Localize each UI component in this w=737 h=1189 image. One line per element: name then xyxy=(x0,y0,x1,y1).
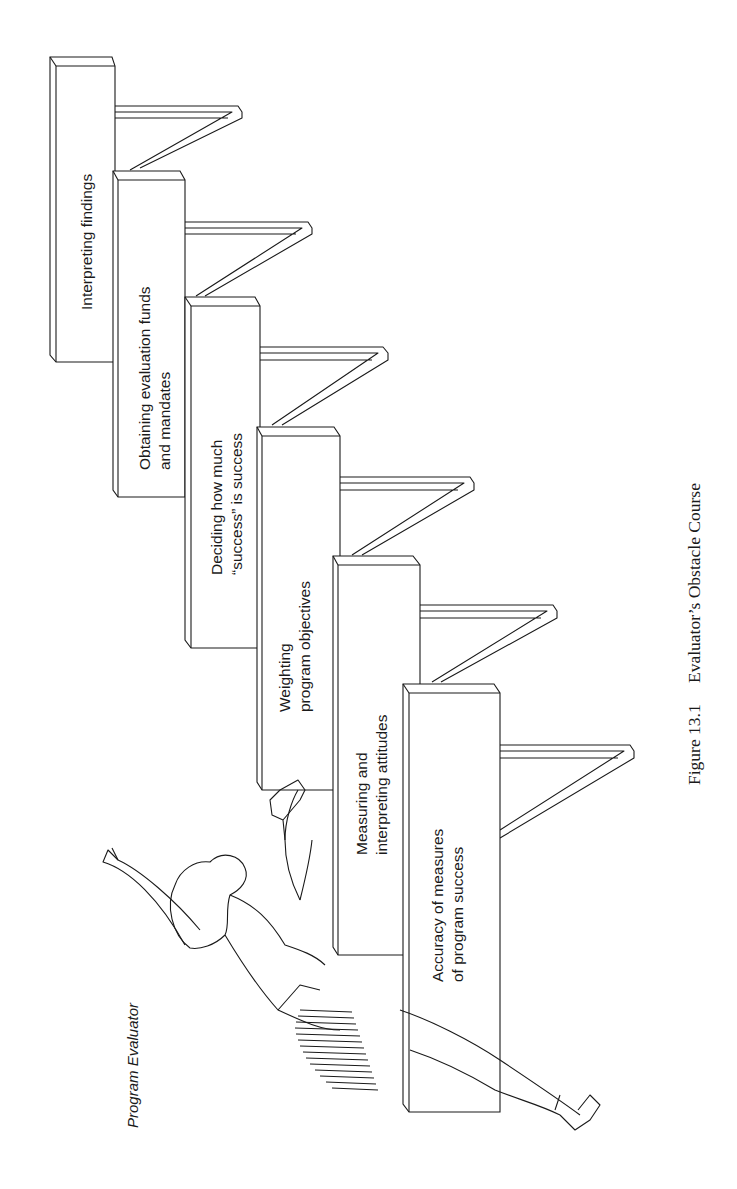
hurdle-label-line2: interpreting attitudes xyxy=(373,714,390,855)
hurdle-interpreting-findings: Interpreting findings xyxy=(50,57,115,362)
hurdle-label-line2: and mandates xyxy=(156,372,173,470)
hurdle-label-line1: Accuracy of measures xyxy=(429,828,446,982)
hurdle-label: Interpreting findings xyxy=(78,174,95,310)
hurdle-label-line1: Weighting xyxy=(276,643,293,712)
shorts-hatching xyxy=(295,1010,378,1090)
hurdle-obtaining-funds: Obtaining evaluation funds and mandates xyxy=(113,171,185,497)
caption-number: Figure 13.1 xyxy=(684,704,704,785)
hurdle-weighting-objectives: Weighting program objectives xyxy=(257,427,340,790)
figure-caption: Figure 13.1 Evaluator’s Obstacle Course xyxy=(684,483,704,785)
hurdle-label-line1: Obtaining evaluation funds xyxy=(136,286,153,470)
hurdle-label-line2: “success” is success xyxy=(228,433,245,575)
hurdle-label-line1: Measuring and xyxy=(353,752,370,855)
hurdle-deciding-success: Deciding how much “success” is success xyxy=(185,297,260,648)
caption-title: Evaluator’s Obstacle Course xyxy=(684,483,704,683)
character-label: Program Evaluator xyxy=(124,1002,141,1128)
hurdle-label-line2: of program success xyxy=(449,847,466,982)
hurdle-accuracy-of-measures: Accuracy of measures of program success xyxy=(403,684,500,1112)
hurdle-label-line1: Deciding how much xyxy=(208,440,225,575)
hurdle-label-line2: program objectives xyxy=(296,581,313,712)
obstacle-course-figure: Interpreting findings Obtaining evaluati… xyxy=(0,0,737,1189)
